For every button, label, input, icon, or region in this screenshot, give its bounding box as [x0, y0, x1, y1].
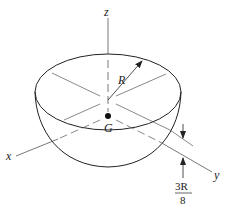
z-axis-label: z — [103, 5, 109, 19]
rim-diameter-2 — [64, 104, 100, 120]
x-axis-label: x — [5, 149, 12, 163]
radius-label: R — [117, 73, 126, 87]
y-axis-inner — [116, 120, 160, 142]
hemisphere-diagram: R G x y z 3R 8 — [0, 0, 230, 206]
x-axis-outer — [16, 139, 58, 156]
rim-diameter-1b — [116, 104, 170, 130]
dimension-denominator: 8 — [180, 194, 186, 206]
centroid-dot — [105, 113, 111, 119]
rim-plane-extension — [170, 130, 193, 146]
centroid-label: G — [104, 121, 113, 135]
y-axis-label: y — [213, 168, 220, 182]
y-axis-outer — [160, 142, 212, 172]
rim-diameter-1 — [52, 73, 100, 96]
dimension-numerator: 3R — [175, 180, 189, 192]
